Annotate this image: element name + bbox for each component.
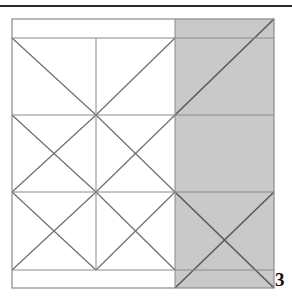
figure-diagram [0, 0, 292, 305]
shaded-right-column [175, 19, 274, 288]
figure-page: 3 [0, 0, 292, 305]
figure-number-label: 3 [275, 268, 292, 292]
